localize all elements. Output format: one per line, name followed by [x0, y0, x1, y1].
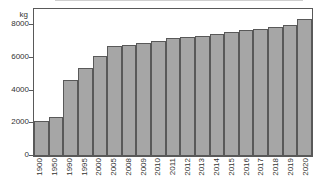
bar-1900	[34, 121, 49, 156]
bar-2020	[297, 19, 312, 156]
x-tick-slot: 2011	[166, 158, 181, 186]
x-tick-label: 1900	[35, 158, 45, 176]
x-tick-label: 1995	[80, 158, 90, 176]
x-tick-label: 2009	[139, 158, 149, 176]
bar-2012	[180, 37, 195, 156]
x-tick-label: 2012	[183, 158, 193, 176]
y-tick-label: 0	[0, 150, 29, 160]
x-tick-slot: 2020	[298, 158, 313, 186]
bar-1950	[49, 117, 64, 156]
bar-2018	[268, 27, 283, 156]
x-tick-slot: 2010	[151, 158, 166, 186]
x-tick-slot: 1900	[33, 158, 48, 186]
x-tick-slot: 2016	[239, 158, 254, 186]
y-tick-label: 2000	[0, 117, 29, 127]
x-tick-slot: 2013	[195, 158, 210, 186]
x-tick-slot: 1950	[48, 158, 63, 186]
y-tick-mark	[29, 122, 33, 123]
x-tick-slot: 2008	[121, 158, 136, 186]
bar-2011	[166, 38, 181, 156]
x-tick-label: 2000	[94, 158, 104, 176]
x-tick-slot: 2005	[107, 158, 122, 186]
x-tick-slot: 2017	[254, 158, 269, 186]
x-tick-label: 1950	[50, 158, 60, 176]
x-tick-label: 2005	[109, 158, 119, 176]
x-axis: 1900195019901995200020052008200920102011…	[33, 158, 313, 186]
bar-2019	[283, 25, 298, 157]
bar-2013	[195, 36, 210, 156]
x-tick-slot: 2015	[225, 158, 240, 186]
bar-2010	[151, 41, 166, 156]
y-tick-label: 8000	[0, 19, 29, 29]
x-tick-slot: 2019	[283, 158, 298, 186]
bar-2017	[253, 29, 268, 156]
x-tick-label: 2011	[168, 158, 178, 175]
bar-1990	[63, 80, 78, 156]
x-tick-label: 2013	[197, 158, 207, 176]
y-tick-mark	[29, 90, 33, 91]
x-tick-label: 2019	[286, 158, 296, 176]
x-tick-label: 2015	[227, 158, 237, 176]
x-tick-label: 1990	[65, 158, 75, 176]
x-tick-slot: 2009	[136, 158, 151, 186]
y-tick-mark	[29, 57, 33, 58]
x-tick-label: 2010	[153, 158, 163, 176]
bar-2005	[107, 46, 122, 156]
plot-area	[33, 8, 313, 157]
y-tick-label: 6000	[0, 52, 29, 62]
bars	[34, 9, 312, 156]
x-tick-label: 2014	[212, 158, 222, 176]
bar-2009	[136, 43, 151, 157]
bar-1995	[78, 68, 93, 156]
x-tick-slot: 2012	[180, 158, 195, 186]
bar-2015	[224, 32, 239, 156]
x-tick-label: 2016	[242, 158, 252, 176]
bar-2014	[210, 34, 225, 157]
y-tick-label: 4000	[0, 85, 29, 95]
x-tick-label: 2018	[271, 158, 281, 176]
x-tick-slot: 2018	[269, 158, 284, 186]
x-tick-slot: 1990	[62, 158, 77, 186]
cropped-content-remnant	[55, 0, 303, 1]
bar-chart: kg 02000400060008000 1900195019901995200…	[0, 0, 316, 188]
x-tick-slot: 1995	[77, 158, 92, 186]
x-tick-slot: 2014	[210, 158, 225, 186]
x-tick-label: 2020	[301, 158, 311, 176]
bar-2016	[239, 30, 254, 156]
bar-2000	[93, 56, 108, 156]
y-tick-mark	[29, 24, 33, 25]
x-tick-label: 2017	[256, 158, 266, 176]
y-tick-mark	[29, 155, 33, 156]
x-tick-slot: 2000	[92, 158, 107, 186]
bar-2008	[122, 45, 137, 156]
x-tick-label: 2008	[124, 158, 134, 176]
